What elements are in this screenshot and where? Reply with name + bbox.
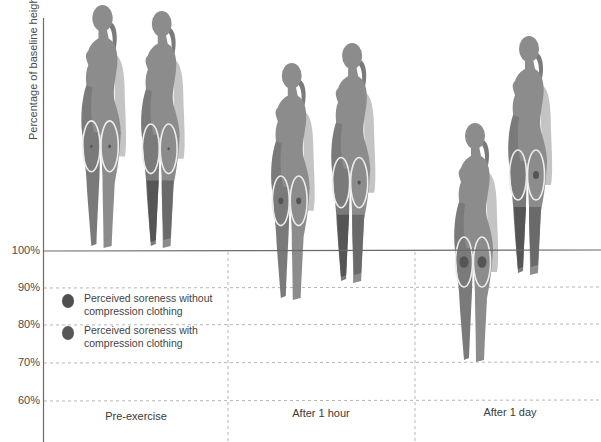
figure-hour-with — [331, 43, 375, 283]
compression-left-icon — [147, 181, 159, 242]
category-label: After 1 hour — [292, 407, 349, 419]
figure-hour-without — [271, 63, 315, 300]
gridline — [44, 362, 601, 363]
head-icon — [342, 43, 362, 69]
gridline — [44, 400, 601, 401]
y-tick-label: 70% — [2, 356, 40, 368]
legend-item-without: Perceived soreness without compression c… — [62, 292, 234, 318]
soreness-dot-left — [460, 256, 469, 268]
chart: Percentage of baseline height 100%90%80%… — [0, 0, 601, 442]
legend-dot-without-icon — [62, 294, 74, 308]
head-icon — [92, 5, 112, 31]
y-tick-label: 90% — [2, 281, 40, 293]
y-tick-label: 80% — [2, 318, 40, 330]
category-label: After 1 day — [483, 406, 536, 418]
gridline — [44, 287, 601, 288]
head-icon — [465, 123, 485, 149]
compression-right-icon — [162, 181, 174, 241]
figure-pre-with — [141, 11, 185, 248]
category-label: Pre-exercise — [105, 410, 167, 422]
soreness-dot-left — [90, 145, 92, 148]
soreness-dot-left — [278, 197, 283, 204]
legend-dot-with-icon — [62, 326, 74, 340]
left-leg-icon — [82, 132, 100, 246]
compression-left-icon — [337, 215, 349, 277]
head-icon — [152, 11, 172, 37]
y-axis-label: Percentage of baseline height — [27, 0, 39, 140]
soreness-dot-right — [478, 256, 487, 268]
head-icon — [519, 36, 539, 62]
figure-day-with — [508, 36, 552, 275]
compression-right-icon — [352, 215, 364, 275]
soreness-dot-right — [296, 197, 301, 204]
y-tick-label: 100% — [2, 244, 40, 256]
y-tick-label: 60% — [2, 394, 40, 406]
legend-label: Perceived soreness with compression clot… — [84, 324, 234, 350]
legend-item-with: Perceived soreness with compression clot… — [62, 324, 234, 350]
legend-label: Perceived soreness without compression c… — [84, 292, 234, 318]
compression-left-icon — [514, 207, 526, 269]
figure-pre-without — [81, 5, 126, 248]
figure-day-without — [454, 123, 498, 362]
legend: Perceived soreness without compression c… — [62, 292, 234, 356]
head-icon — [282, 63, 302, 89]
soreness-dot-right — [108, 144, 111, 148]
soreness-dot-right — [533, 171, 539, 179]
compression-right-icon — [529, 207, 541, 267]
soreness-dot-right — [358, 180, 361, 184]
plot-area — [0, 0, 601, 442]
soreness-dot-right — [167, 147, 169, 150]
